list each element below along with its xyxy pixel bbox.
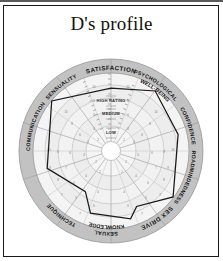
page-title: D's profile (0, 13, 223, 35)
center-hub (102, 142, 121, 161)
scale-label-medium: MEDIUM (102, 111, 120, 116)
svg-text:10: 10 (127, 85, 130, 89)
svg-text:10: 10 (93, 85, 96, 89)
radar-svg: 1010 1010 1010 88 88 88 88 66 66 66 66 6… (6, 41, 217, 259)
svg-text:10: 10 (65, 110, 68, 114)
scale-label-low: LOW (106, 130, 116, 135)
radar-chart: 1010 1010 1010 88 88 88 88 66 66 66 66 6… (6, 41, 217, 259)
profile-page: D's profile (0, 0, 223, 261)
top-rule (0, 0, 223, 2)
scale-label-high: HIGH RATING (97, 98, 126, 103)
svg-text:10: 10 (172, 148, 175, 152)
svg-text:10: 10 (155, 110, 158, 114)
